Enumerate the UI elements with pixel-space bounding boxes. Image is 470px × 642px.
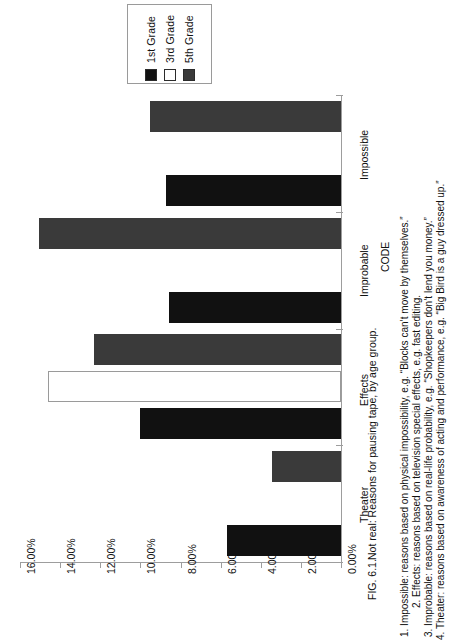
category-label-impossible: Impossible	[358, 130, 370, 180]
figure-caption-label: FIG. 6.1.	[366, 559, 379, 600]
legend-swatch-5th-grade	[183, 69, 195, 81]
value-axis-tick-label: 16.00%	[25, 538, 37, 574]
value-axis-tick-label: 0.00%	[346, 544, 358, 574]
legend-swatch-3rd-grade	[164, 69, 176, 81]
value-axis-tick	[100, 562, 101, 568]
legend-label-5th-grade: 5th Grade	[183, 15, 195, 63]
grid-stub	[340, 445, 341, 562]
grid-stub	[340, 95, 341, 212]
bar-impossible-5th-grade	[150, 101, 341, 132]
value-axis-tick	[60, 562, 61, 568]
grid-stub	[340, 212, 341, 329]
code-item-improbable: 3. Improbable: reasons based on real-lif…	[423, 217, 435, 637]
grid-stub	[340, 329, 341, 446]
category-axis-tick	[336, 212, 343, 213]
bar-effects-1st-grade	[140, 408, 341, 439]
value-axis-tick-label: 10.00%	[145, 538, 157, 574]
bar-improbable-1st-grade	[169, 292, 341, 323]
bar-effects-5th-grade	[94, 334, 341, 365]
legend-item: 3rd Grade	[164, 10, 176, 81]
bar-theater-1st-grade	[227, 525, 341, 556]
value-axis-tick-label: 14.00%	[65, 538, 77, 574]
value-axis-tick-label: 2.00%	[306, 544, 318, 574]
value-axis-tick	[181, 562, 182, 568]
value-axis-tick-label: 12.00%	[105, 538, 117, 574]
value-axis-tick	[301, 562, 302, 568]
bar-impossible-1st-grade	[166, 175, 341, 206]
bar-effects-3rd-grade	[48, 371, 341, 402]
code-heading: CODE	[379, 242, 392, 272]
category-axis-tick	[336, 562, 343, 563]
legend-item: 5th Grade	[183, 10, 195, 81]
value-axis-tick	[20, 562, 21, 568]
figure-caption-text: Not real: Reasons for pausing tape, by a…	[366, 328, 379, 560]
category-axis-tick	[336, 95, 343, 96]
category-axis-tick	[336, 445, 343, 446]
value-axis-tick-label: 6.00%	[226, 544, 238, 574]
legend-label-1st-grade: 1st Grade	[145, 16, 157, 63]
value-axis-tick	[221, 562, 222, 568]
legend-item: 1st Grade	[145, 10, 157, 81]
category-label-improbable: Improbable	[358, 245, 370, 298]
value-axis-tick	[140, 562, 141, 568]
legend-label-3rd-grade: 3rd Grade	[164, 15, 176, 63]
code-item-theater: 4. Theater: reasons based on awareness o…	[435, 180, 447, 640]
bar-theater-5th-grade	[272, 451, 341, 482]
value-axis-tick-label: 8.00%	[186, 544, 198, 574]
value-axis-tick-label: 4.00%	[266, 544, 278, 574]
code-item-effects: 2. Effects: reasons based on television …	[411, 295, 423, 608]
legend-swatch-1st-grade	[145, 69, 157, 81]
figure-page: 1st Grade 3rd Grade 5th Grade 16.00%14.0…	[0, 0, 470, 642]
category-axis-tick	[336, 329, 343, 330]
bar-improbable-5th-grade	[39, 218, 341, 249]
value-axis-tick	[261, 562, 262, 568]
code-item-impossible: 1. Impossible: reasons based on physical…	[399, 216, 411, 637]
chart-legend: 1st Grade 3rd Grade 5th Grade	[127, 4, 212, 84]
